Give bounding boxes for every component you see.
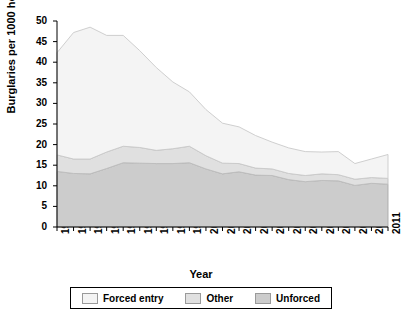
legend-label-forced-entry: Forced entry bbox=[103, 293, 164, 304]
chart-figure: Burglaries per 1000 households 051015202… bbox=[0, 0, 402, 324]
legend-item-other: Other bbox=[185, 293, 233, 304]
chart-legend: Forced entry Other Unforced bbox=[70, 287, 332, 309]
legend-swatch-unforced bbox=[255, 293, 271, 304]
x-axis-title: Year bbox=[0, 268, 402, 280]
legend-swatch-other bbox=[185, 293, 201, 304]
legend-label-unforced: Unforced bbox=[276, 293, 320, 304]
legend-item-forced-entry: Forced entry bbox=[82, 293, 164, 304]
legend-swatch-forced-entry bbox=[82, 293, 98, 304]
legend-item-unforced: Unforced bbox=[255, 293, 320, 304]
legend-label-other: Other bbox=[206, 293, 233, 304]
stacked-areas bbox=[57, 27, 388, 227]
